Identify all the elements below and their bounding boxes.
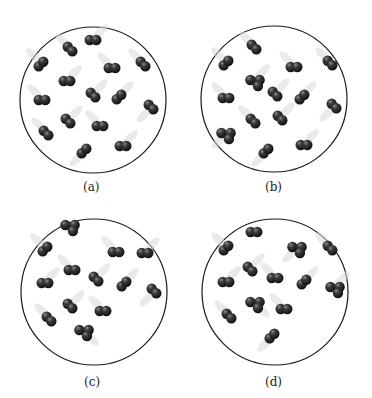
atom [223, 56, 233, 66]
atom [301, 275, 311, 285]
atom [65, 76, 75, 86]
panel-c [21, 219, 167, 365]
atom [140, 61, 150, 71]
panel-label-c: (c) [84, 375, 100, 389]
atom [247, 266, 257, 276]
atom [302, 140, 312, 150]
atom [327, 60, 337, 70]
atom [331, 103, 341, 113]
atom [295, 248, 305, 258]
atom [46, 316, 56, 326]
atom [263, 144, 273, 154]
atom [252, 227, 262, 237]
atom [67, 303, 77, 313]
atom [251, 44, 261, 54]
atom [282, 304, 292, 314]
atom [101, 306, 111, 316]
atom [43, 278, 53, 288]
atom [226, 313, 236, 323]
atom [151, 288, 161, 298]
atom [90, 92, 100, 102]
atom [269, 329, 279, 339]
atom [292, 62, 302, 72]
panel-b [201, 26, 347, 172]
atom [43, 130, 53, 140]
atom [38, 57, 48, 67]
atom [110, 63, 120, 73]
atom [91, 35, 101, 45]
atom [333, 288, 343, 298]
atom [253, 81, 263, 91]
atom [67, 46, 77, 56]
atom [253, 303, 263, 313]
atom [40, 95, 50, 105]
atom [327, 245, 337, 255]
atom [143, 248, 153, 258]
atom [116, 90, 126, 100]
molecule-figure [0, 0, 372, 398]
atom [224, 93, 234, 103]
panel-d [202, 219, 352, 365]
atom [68, 226, 78, 236]
atom [224, 134, 234, 144]
atom [114, 247, 124, 257]
panel-label-a: (a) [83, 180, 100, 194]
atom [42, 242, 52, 252]
atom [224, 277, 234, 287]
atom [81, 144, 91, 154]
atom [121, 141, 131, 151]
atom [121, 277, 131, 287]
atom [299, 90, 309, 100]
atom [148, 104, 158, 114]
atom [98, 121, 108, 131]
panel-label-b: (b) [265, 180, 282, 194]
panel-label-d: (d) [265, 375, 282, 389]
molecule [246, 227, 263, 237]
atom [273, 273, 283, 283]
atom [250, 118, 260, 128]
atom [70, 265, 80, 275]
atom [277, 115, 287, 125]
atom [223, 241, 233, 251]
panel-a [20, 22, 166, 173]
atom [65, 118, 75, 128]
atom [93, 276, 103, 286]
atom [82, 331, 92, 341]
atom [272, 91, 282, 101]
